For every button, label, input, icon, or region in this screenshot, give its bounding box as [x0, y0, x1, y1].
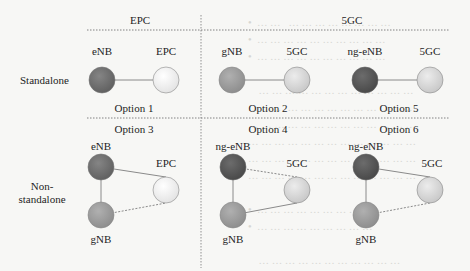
node-label-5gc: 5GC — [287, 45, 308, 57]
node-label-epc: EPC — [156, 157, 176, 169]
node-label-gnb: gNB — [356, 233, 377, 245]
node-label-gnb: gNB — [223, 233, 244, 245]
row-label-standalone: Standalone — [20, 74, 69, 86]
epc-node-icon — [153, 67, 179, 93]
option-5-label: Option 5 — [380, 102, 419, 114]
option-1-label: Option 1 — [115, 102, 154, 114]
node-label-enb: eNB — [91, 140, 111, 152]
node-label-5gc: 5GC — [420, 45, 441, 57]
node-label-5gc: 5GC — [422, 157, 443, 169]
gnb-node-icon — [353, 202, 379, 228]
ng-enb-node-icon — [220, 154, 246, 180]
row-label-nonstandalone-1: Non- — [31, 180, 54, 192]
5gc-node-icon — [284, 67, 310, 93]
option-4-label: Option 4 — [249, 123, 288, 135]
5gc-node-icon — [417, 177, 443, 203]
node-label-ng-enb: ng-eNB — [348, 45, 383, 57]
node-label-enb: eNB — [92, 45, 112, 57]
5gc-node-icon — [284, 177, 310, 203]
node-label-ng-enb: ng-eNB — [349, 140, 384, 152]
gnb-node-icon — [220, 202, 246, 228]
node-label-gnb: gNB — [91, 233, 112, 245]
node-label-5gc: 5GC — [287, 157, 308, 169]
header-5gc: 5GC — [342, 14, 363, 26]
node-label-ng-enb: ng-eNB — [216, 140, 251, 152]
node-label-gnb: gNB — [222, 45, 243, 57]
ng-enb-node-icon — [353, 154, 379, 180]
option-6-label: Option 6 — [380, 123, 419, 135]
enb-node-icon — [89, 67, 115, 93]
gnb-node-icon — [219, 67, 245, 93]
node-label-epc: EPC — [156, 45, 176, 57]
option-2-label: Option 2 — [249, 102, 288, 114]
enb-node-icon — [88, 154, 114, 180]
gnb-node-icon — [88, 202, 114, 228]
row-label-nonstandalone-2: standalone — [18, 193, 65, 205]
ng-enb-node-icon — [352, 67, 378, 93]
option-3-label: Option 3 — [115, 123, 154, 135]
5gc-node-icon — [417, 67, 443, 93]
nr-deployment-options-diagram: EPC 5GC Standalone Non- standalone eNB E… — [0, 0, 470, 271]
header-epc: EPC — [130, 14, 150, 26]
epc-node-icon — [153, 177, 179, 203]
